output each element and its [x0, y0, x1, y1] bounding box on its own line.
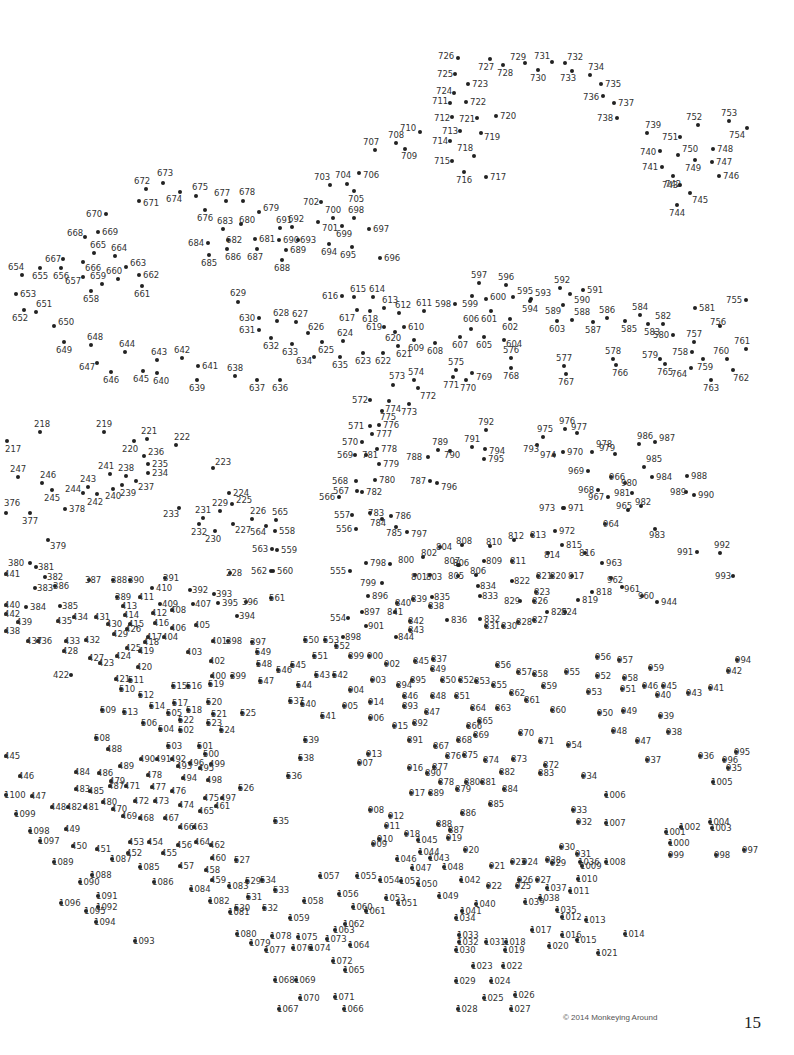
dot-number-label: 759 [697, 363, 713, 372]
puzzle-dot [364, 561, 368, 565]
dot-number-label: 659 [90, 272, 106, 281]
dot-number-label: 668 [67, 229, 83, 238]
dot-number-label: 1039 [523, 898, 545, 907]
puzzle-dot [352, 216, 356, 220]
dot-number-label: 467 [163, 814, 179, 823]
dot-number-label: 884 [502, 785, 518, 794]
puzzle-dot [86, 485, 90, 489]
puzzle-dot [366, 594, 370, 598]
dot-number-label: 762 [733, 374, 749, 383]
puzzle-dot [422, 309, 426, 313]
dot-number-label: 412 [151, 609, 167, 618]
dot-number-label: 377 [22, 517, 38, 526]
dot-number-label: 1026 [513, 991, 535, 1000]
puzzle-dot [95, 492, 99, 496]
dot-number-label: 766 [612, 369, 628, 378]
dot-number-label: 917 [409, 789, 425, 798]
dot-number-label: 437 [26, 637, 42, 646]
dot-number-label: 902 [384, 660, 400, 669]
dot-number-label: 246 [40, 471, 56, 480]
dot-number-label: 707 [363, 138, 379, 147]
dot-number-label: 592 [554, 276, 570, 285]
dot-number-label: 1017 [530, 926, 552, 935]
puzzle-dot [570, 318, 574, 322]
dot-number-label: 803 [426, 573, 442, 582]
dot-number-label: 789 [432, 438, 448, 447]
puzzle-dot [373, 148, 377, 152]
dot-number-label: 1086 [152, 878, 174, 887]
dot-number-label: 588 [574, 308, 590, 317]
dot-number-label: 1007 [604, 819, 626, 828]
dot-number-label: 601 [481, 315, 497, 324]
puzzle-dot [563, 427, 567, 431]
puzzle-dot [341, 339, 345, 343]
dot-number-label: 506 [141, 719, 157, 728]
puzzle-dot [161, 181, 165, 185]
puzzle-dot [484, 297, 488, 301]
dot-number-label: 824 [561, 608, 577, 617]
dot-number-label: 231 [195, 506, 211, 515]
dot-number-label: 889 [428, 789, 444, 798]
dot-number-label: 627 [292, 310, 308, 319]
dot-number-label: 1006 [604, 791, 626, 800]
puzzle-dot [448, 101, 452, 105]
dot-number-label: 1056 [337, 890, 359, 899]
puzzle-dot [456, 56, 460, 60]
dot-number-label: 924 [522, 858, 538, 867]
dot-number-label: 1005 [711, 778, 733, 787]
puzzle-dot [484, 428, 488, 432]
dot-number-label: 514 [149, 702, 165, 711]
puzzle-dot [451, 375, 455, 379]
dot-number-label: 1045 [416, 836, 438, 845]
dot-number-label: 402 [209, 657, 225, 666]
puzzle-dot [612, 101, 616, 105]
dot-number-label: 615 [350, 285, 366, 294]
puzzle-dot [346, 616, 350, 620]
dot-number-label: 1014 [623, 930, 645, 939]
dot-number-label: 868 [456, 736, 472, 745]
puzzle-dot [710, 160, 714, 164]
dot-number-label: 680 [239, 216, 255, 225]
dot-number-label: 611 [416, 299, 432, 308]
dot-number-label: 451 [95, 845, 111, 854]
dot-number-label: 610 [408, 323, 424, 332]
dot-number-label: 848 [430, 692, 446, 701]
dot-number-label: 540 [300, 700, 316, 709]
dot-number-label: 560 [277, 567, 293, 576]
puzzle-dot [717, 174, 721, 178]
dot-number-label: 841 [387, 608, 403, 617]
dot-number-label: 559 [281, 546, 297, 555]
puzzle-dot [611, 357, 615, 361]
puzzle-dot [194, 194, 198, 198]
dot-number-label: 944 [661, 598, 677, 607]
dot-number-label: 717 [490, 173, 506, 182]
dot-number-label: 860 [550, 706, 566, 715]
dot-number-label: 816 [579, 549, 595, 558]
puzzle-dot [658, 357, 662, 361]
dot-number-label: 863 [495, 704, 511, 713]
puzzle-dot [553, 529, 557, 533]
dot-number-label: 1055 [355, 872, 377, 881]
dot-number-label: 532 [262, 904, 278, 913]
dot-number-label: 459 [210, 876, 226, 885]
puzzle-dot [270, 547, 274, 551]
dot-number-label: 241 [98, 462, 114, 471]
dot-number-label: 637 [249, 384, 265, 393]
dot-number-label: 878 [438, 778, 454, 787]
dot-number-label: 494 [181, 774, 197, 783]
puzzle-dot [397, 311, 401, 315]
dot-number-label: 1000 [668, 839, 690, 848]
puzzle-dot [637, 442, 641, 446]
dot-number-label: 805 [448, 572, 464, 581]
dot-number-label: 703 [314, 173, 330, 182]
dot-number-label: 921 [489, 862, 505, 871]
puzzle-dot [16, 475, 20, 479]
puzzle-dot [137, 273, 141, 277]
dot-number-label: 541 [320, 712, 336, 721]
puzzle-dot [253, 237, 257, 241]
dot-number-label: 510 [119, 685, 135, 694]
dot-number-label: 378 [69, 505, 85, 514]
dot-number-label: 873 [511, 755, 527, 764]
dot-number-label: 225 [236, 496, 252, 505]
dot-number-label: 786 [395, 512, 411, 521]
